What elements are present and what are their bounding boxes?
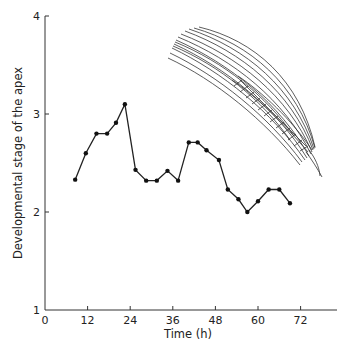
y-tick-label: 4 — [33, 10, 40, 23]
data-point — [165, 169, 169, 173]
y-axis-label: Developmental stage of the apex — [11, 67, 25, 259]
awns — [168, 27, 315, 165]
data-point — [266, 187, 270, 191]
x-tick-label: 12 — [81, 314, 95, 327]
data-point — [256, 199, 260, 203]
data-point — [187, 140, 191, 144]
x-tick-label: 24 — [123, 314, 137, 327]
x-tick-label: 60 — [251, 314, 265, 327]
data-point — [105, 131, 109, 135]
y-tick-label: 2 — [33, 206, 40, 219]
data-point — [133, 168, 137, 172]
series-line — [75, 104, 290, 212]
data-point — [155, 178, 159, 182]
line-chart: 0122436486072 1234 Time (h) Developmenta… — [0, 0, 353, 356]
axes: 0122436486072 1234 — [33, 10, 337, 327]
x-tick-label: 72 — [294, 314, 308, 327]
y-ticks: 1234 — [33, 10, 49, 317]
data-point — [123, 102, 127, 106]
x-ticks: 0122436486072 — [42, 306, 308, 327]
data-point — [73, 177, 77, 181]
data-point — [277, 187, 281, 191]
data-point — [94, 131, 98, 135]
wheat-ear-illustration — [168, 27, 322, 177]
x-tick-label: 0 — [42, 314, 49, 327]
data-point — [195, 140, 199, 144]
data-point — [144, 178, 148, 182]
data-point — [245, 210, 249, 214]
data-point — [114, 121, 118, 125]
x-tick-label: 36 — [166, 314, 180, 327]
x-tick-label: 48 — [208, 314, 222, 327]
x-axis-label: Time (h) — [163, 327, 212, 341]
data-point — [217, 158, 221, 162]
data-series — [73, 102, 292, 214]
data-point — [176, 178, 180, 182]
data-point — [288, 201, 292, 205]
data-point — [204, 148, 208, 152]
data-point — [236, 197, 240, 201]
data-point — [226, 187, 230, 191]
y-tick-label: 1 — [33, 304, 40, 317]
y-tick-label: 3 — [33, 108, 40, 121]
data-point — [84, 151, 88, 155]
